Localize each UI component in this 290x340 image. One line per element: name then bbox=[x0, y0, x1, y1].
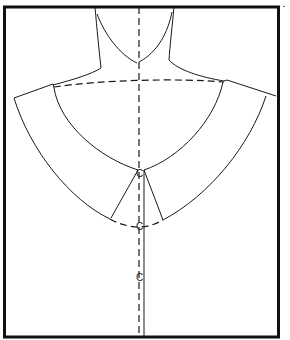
notch-label: C bbox=[136, 221, 143, 232]
collar-outer-edge-right bbox=[163, 96, 266, 220]
neck-outline-left bbox=[53, 7, 101, 85]
collar-neckline-edge-right bbox=[144, 82, 223, 170]
chin-curve-left bbox=[97, 14, 137, 63]
chin-curve-right bbox=[139, 12, 172, 62]
notch-label: C bbox=[136, 168, 143, 179]
collar-shoulder-right bbox=[224, 80, 276, 96]
neck-outline-right bbox=[169, 7, 224, 81]
collar-outer-edge-left bbox=[14, 98, 110, 219]
collar-neckline-edge-left bbox=[54, 88, 138, 170]
collar-shoulder-left bbox=[14, 84, 54, 98]
stray-mark bbox=[283, 6, 285, 7]
notch-label: C bbox=[136, 272, 143, 283]
front-opening-left bbox=[111, 170, 138, 218]
front-opening-right bbox=[144, 170, 163, 220]
collar-pattern-diagram: C C C bbox=[0, 0, 290, 340]
